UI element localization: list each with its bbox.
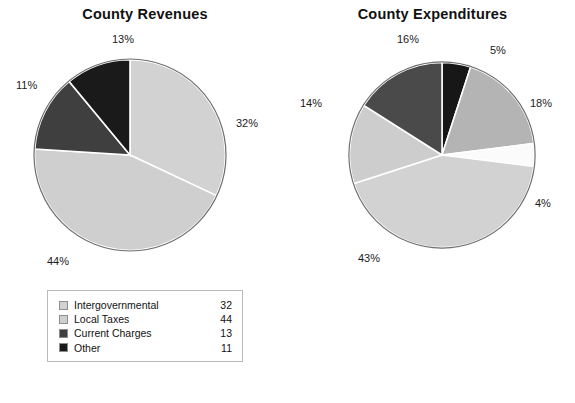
- legend-swatch-icon: [59, 329, 68, 338]
- pie-svg-expenditures: [345, 58, 539, 252]
- pie-label-general-government-expenditures: 16%: [397, 33, 419, 45]
- legend-row[interactable]: Current Charges13: [59, 326, 232, 340]
- pie-label-interest-expenditures: 14%: [300, 97, 322, 109]
- pie-label-health-welfare-expenditures: 43%: [358, 252, 380, 264]
- pie-label-public-safety-expenditures: 18%: [530, 97, 552, 109]
- legend-row[interactable]: Local Taxes44: [59, 312, 232, 326]
- chart-panel-expenditures: County Expenditures 16% 5% 14% 18% 4% 43…: [290, 0, 575, 403]
- legend-swatch-icon: [59, 301, 68, 310]
- pie-slices-revenues: [35, 60, 226, 251]
- legend-revenues: Intergovernmental32Local Taxes44Current …: [47, 290, 243, 362]
- pie-label-local-taxes-revenues: 44%: [47, 255, 69, 267]
- legend-row[interactable]: Intergovernmental32: [59, 298, 232, 312]
- legend-swatch-icon: [59, 315, 68, 324]
- legend-row[interactable]: Other11: [59, 341, 232, 355]
- pie-chart-revenues: [30, 55, 230, 255]
- legend-value: 11: [216, 341, 232, 355]
- page-title-expenditures: County Expenditures: [290, 6, 575, 22]
- pie-label-other-revenues: 11%: [16, 79, 37, 91]
- pie-chart-expenditures: [345, 58, 539, 252]
- pie-label-current-charges-revenues: 13%: [112, 33, 134, 45]
- pie-label-parks-expenditures: 4%: [535, 197, 551, 209]
- legend-label: Local Taxes: [74, 312, 216, 326]
- legend-label: Intergovernmental: [74, 298, 216, 312]
- pie-label-intergovernmental-revenues: 32%: [236, 117, 258, 129]
- legend-value: 32: [216, 298, 232, 312]
- legend-value: 13: [216, 326, 232, 340]
- pie-slices-expenditures: [349, 62, 534, 247]
- legend-swatch-icon: [59, 343, 68, 352]
- legend-label: Other: [74, 341, 216, 355]
- pie-label-roads-expenditures: 5%: [490, 44, 506, 56]
- pie-svg-revenues: [30, 55, 230, 255]
- page-title-revenues: County Revenues: [0, 6, 290, 22]
- chart-panel-revenues: County Revenues 13% 11% 32% 44% Intergov…: [0, 0, 290, 403]
- legend-value: 44: [216, 312, 232, 326]
- legend-label: Current Charges: [74, 326, 216, 340]
